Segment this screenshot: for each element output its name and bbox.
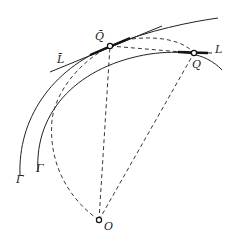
label-o: O bbox=[104, 220, 113, 233]
dashed-arc-o bbox=[52, 46, 110, 220]
label-gamma: Γ bbox=[35, 162, 44, 175]
label-q-bar: Q̄ bbox=[95, 30, 104, 43]
label-l-bar: L̄ bbox=[56, 53, 64, 66]
point-q-bar bbox=[107, 43, 112, 48]
label-gamma-bar: Γ̄ bbox=[15, 173, 24, 186]
dashed-segment-o-qbar bbox=[99, 46, 110, 220]
dashed-segment-o-q bbox=[99, 53, 194, 220]
dashed-arc-qbar-q bbox=[125, 38, 194, 53]
label-l: L bbox=[214, 43, 222, 56]
geometry-diagram: Q̄ Q L L̄ Γ Γ̄ O bbox=[0, 0, 233, 243]
label-q: Q bbox=[192, 58, 201, 71]
point-q bbox=[191, 50, 196, 55]
point-o bbox=[96, 217, 101, 222]
dashed-chord-qbar-q bbox=[110, 46, 194, 53]
